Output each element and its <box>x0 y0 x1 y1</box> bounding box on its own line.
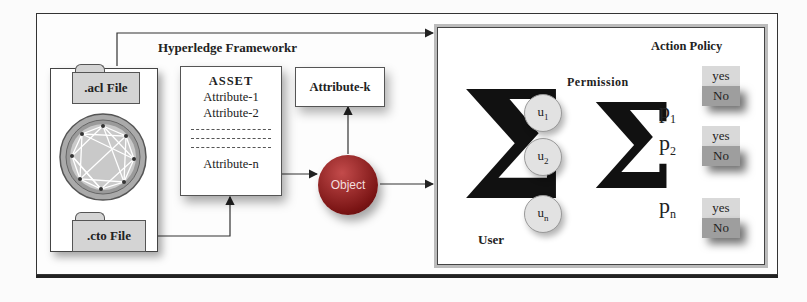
asset-title: ASSET <box>181 73 281 89</box>
cto-file: .cto File <box>72 220 146 252</box>
acl-file: .acl File <box>72 72 140 104</box>
attribute-n: Attribute-n <box>181 156 281 172</box>
hyperledger-network-icon <box>58 112 148 202</box>
framework-title: Hyperledge Frameworkr <box>158 40 297 56</box>
cto-file-label: .cto File <box>87 228 131 243</box>
action-policy-label: Action Policy <box>651 39 722 54</box>
ellipsis-line <box>191 138 271 139</box>
acl-file-label: .acl File <box>84 80 127 95</box>
user-node-1: u1 <box>524 94 562 132</box>
attribute-1: Attribute-1 <box>181 89 281 105</box>
permission-pn: pn <box>659 195 676 220</box>
permission-label: Permission <box>567 75 629 90</box>
policy-n-no: No <box>702 218 740 238</box>
policy-2-yes: yes <box>702 126 740 146</box>
user-node-2: u2 <box>524 138 562 176</box>
permission-p1: p1 <box>659 100 676 125</box>
user-label: User <box>478 232 504 248</box>
policy-1-no: No <box>702 86 740 106</box>
policy-2-no: No <box>702 146 740 166</box>
policy-n-yes: yes <box>702 198 740 218</box>
ellipsis-line <box>191 129 271 130</box>
policy-1-yes: yes <box>702 66 740 86</box>
object-node: Object <box>318 155 378 215</box>
attribute-2: Attribute-2 <box>181 105 281 121</box>
attribute-k-box: Attribute-k <box>295 67 385 107</box>
asset-box: ASSET Attribute-1 Attribute-2 Attribute-… <box>180 66 282 196</box>
ellipsis-line <box>191 147 271 148</box>
permission-p2: p2 <box>659 132 676 157</box>
user-node-n: un <box>524 195 562 233</box>
